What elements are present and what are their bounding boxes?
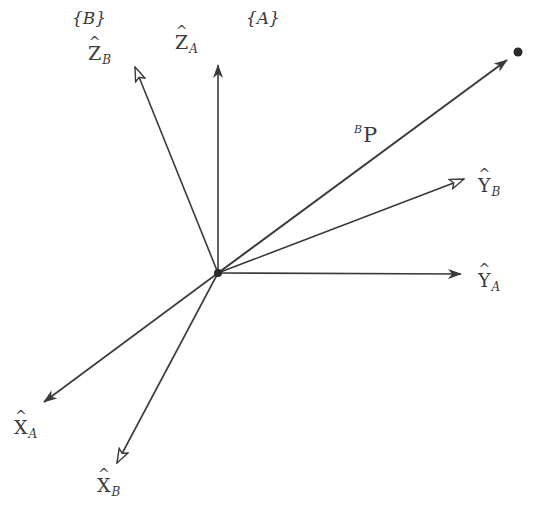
frame-label-a: {A}: [246, 10, 280, 27]
axis-yb-arrow: [218, 179, 464, 273]
origin-point: [214, 269, 222, 277]
axis-subscript: B: [102, 53, 111, 67]
vector-label-bp: BP: [354, 124, 377, 146]
frame-label-b: {B}: [72, 10, 106, 27]
hat-icon: ^: [98, 467, 110, 481]
hat-icon: ^: [478, 262, 490, 276]
frame-b-text: {B}: [72, 8, 106, 28]
axis-label-x-a: ^XA: [14, 418, 37, 440]
hat-icon: ^: [15, 409, 27, 423]
target-point: [514, 48, 523, 57]
axis-zb-arrow: [135, 67, 218, 273]
frame-a-text: {A}: [246, 8, 280, 28]
axis-label-z-a: ^ZA: [175, 33, 198, 55]
axis-subscript: A: [189, 42, 198, 56]
axis-subscript: B: [492, 185, 501, 199]
axis-subscript: A: [492, 280, 501, 294]
axis-ya-arrow: [218, 273, 461, 274]
hat-icon: ^: [89, 35, 101, 49]
vector-frame-superscript: B: [354, 123, 362, 136]
hat-icon: ^: [176, 24, 188, 38]
axis-subscript: A: [29, 427, 38, 441]
axis-label-x-b: ^XB: [97, 476, 120, 498]
axis-label-z-b: ^ZB: [88, 44, 111, 66]
axis-xb-arrow: [117, 273, 218, 463]
axes-layer: [44, 60, 507, 463]
axis-subscript: B: [112, 485, 121, 499]
axis-xa-arrow: [44, 273, 218, 402]
axis-label-y-a: ^YA: [478, 271, 500, 293]
hat-icon: ^: [478, 167, 490, 181]
diagram-canvas: [0, 0, 533, 512]
vector-bp-arrow: [218, 60, 507, 273]
frames-diagram: {B} {A} ^ZB ^ZA ^YB ^YA ^XA ^XB BP: [0, 0, 533, 512]
vector-letter: P: [363, 123, 377, 147]
axis-label-y-b: ^YB: [478, 176, 500, 198]
